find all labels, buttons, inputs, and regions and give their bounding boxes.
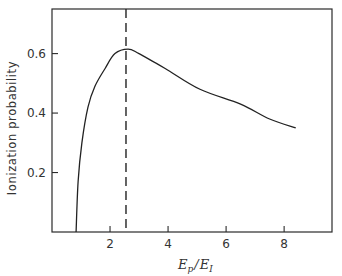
- x-tick-label: 8: [280, 237, 288, 251]
- plot-frame: [52, 9, 332, 232]
- x-tick-label: 6: [222, 237, 230, 251]
- y-axis-label: Ionization probability: [5, 61, 19, 195]
- x-axis-label: Ep/EI: [177, 257, 213, 274]
- x-axis-ticks: 2468: [106, 226, 288, 251]
- ionization-probability-chart: 0.20.40.6 2468 Ionization probability Ep…: [0, 0, 342, 276]
- y-tick-label: 0.4: [27, 106, 46, 120]
- ionization-curve: [76, 49, 296, 232]
- y-tick-label: 0.6: [27, 47, 46, 61]
- x-tick-label: 4: [164, 237, 172, 251]
- y-tick-label: 0.2: [27, 166, 46, 180]
- y-axis-ticks: 0.20.40.6: [27, 47, 58, 180]
- x-tick-label: 2: [106, 237, 114, 251]
- plot-border: [52, 9, 332, 232]
